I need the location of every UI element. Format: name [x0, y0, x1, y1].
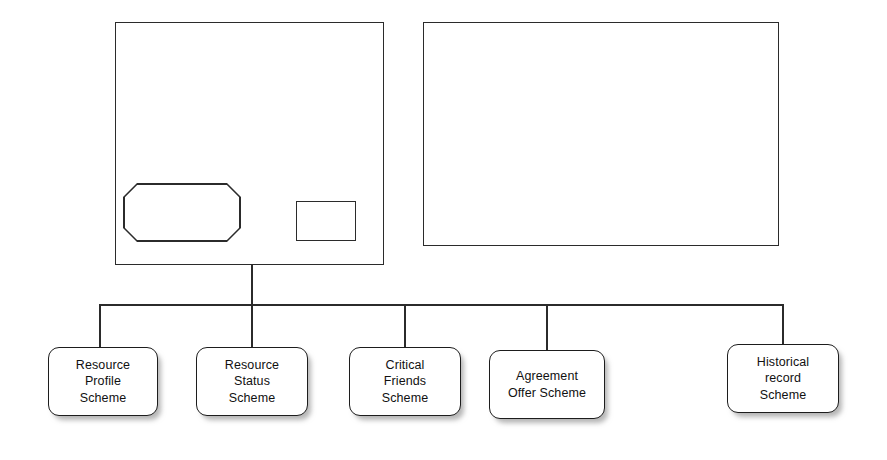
node-label: Resource Profile Scheme — [72, 357, 134, 407]
small-rectangle-shape[interactable] — [296, 201, 356, 241]
connector-drop-3 — [404, 304, 406, 348]
connector-bus-horizontal — [99, 304, 783, 306]
node-resource-status-scheme[interactable]: Resource Status Scheme — [196, 347, 308, 416]
node-label: Critical Friends Scheme — [378, 357, 432, 407]
connector-drop-5 — [782, 304, 784, 344]
connector-stem-vertical — [251, 264, 253, 305]
node-critical-friends-scheme[interactable]: Critical Friends Scheme — [349, 347, 461, 416]
node-resource-profile-scheme[interactable]: Resource Profile Scheme — [48, 347, 158, 416]
connector-drop-1 — [99, 304, 101, 348]
connector-drop-2 — [251, 304, 253, 348]
node-agreement-offer-scheme[interactable]: Agreement Offer Scheme — [489, 350, 605, 419]
octagon-shape[interactable] — [123, 183, 241, 242]
node-historical-record-scheme[interactable]: Historical record Scheme — [727, 344, 839, 413]
connector-drop-4 — [546, 304, 548, 350]
node-label: Resource Status Scheme — [221, 357, 283, 407]
node-label: Historical record Scheme — [753, 354, 813, 404]
node-label: Agreement Offer Scheme — [504, 368, 590, 401]
diagram-canvas: Resource Profile Scheme Resource Status … — [0, 0, 887, 460]
right-container[interactable] — [423, 22, 779, 246]
